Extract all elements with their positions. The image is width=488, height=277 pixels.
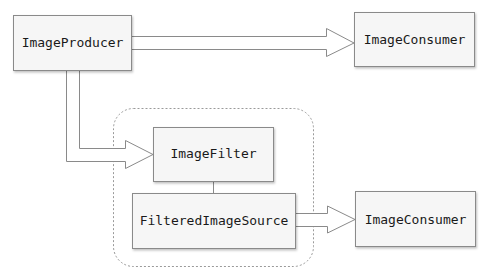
arrow-producer-to-consumer [131, 29, 354, 57]
node-filtered-image-source: FilteredImageSource [133, 194, 296, 249]
node-label: ImageConsumer [364, 32, 466, 47]
node-label: ImageProducer [22, 35, 124, 50]
node-label: ImageConsumer [365, 212, 467, 227]
diagram-canvas: ImageProducer ImageConsumer ImageFilter … [0, 0, 488, 277]
node-image-consumer-top: ImageConsumer [355, 13, 475, 67]
node-image-consumer-bottom: ImageConsumer [356, 192, 476, 247]
node-image-producer: ImageProducer [14, 16, 132, 71]
node-image-filter: ImageFilter [154, 128, 274, 182]
node-label: ImageFilter [170, 146, 256, 161]
node-label: FilteredImageSource [140, 213, 289, 228]
arrow-producer-to-filter [67, 70, 154, 169]
arrow-source-to-consumer [295, 206, 355, 233]
